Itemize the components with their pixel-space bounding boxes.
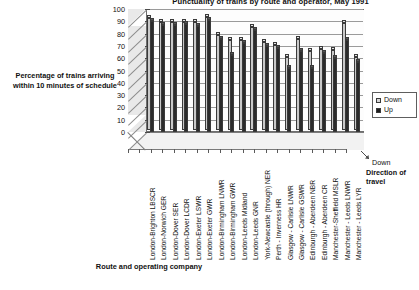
category-label: London-Birmingham LNWR bbox=[218, 179, 225, 260]
bar-top bbox=[265, 43, 269, 46]
depth-axis-tick-label: Down bbox=[372, 158, 390, 167]
bar-top bbox=[342, 20, 346, 23]
bar-up bbox=[219, 39, 223, 132]
category-label: London-Exeter GWR bbox=[206, 199, 213, 260]
bar-top bbox=[242, 40, 246, 43]
bar-top bbox=[193, 19, 197, 22]
bar-face bbox=[207, 20, 211, 132]
legend-item-up[interactable]: Up bbox=[376, 105, 414, 115]
bar-top bbox=[345, 37, 349, 40]
depth-axis-title-line2: travel bbox=[366, 177, 419, 186]
bar-face bbox=[196, 26, 200, 132]
category-label: London-Birmingham GWR bbox=[229, 183, 236, 260]
y-tick-label: 90 bbox=[117, 18, 125, 25]
bar-face bbox=[150, 21, 154, 132]
category-label: Manchester - Leeds LNWR bbox=[344, 180, 351, 260]
category-label: London-Leeds GNR bbox=[252, 201, 259, 260]
legend-swatch-down-icon bbox=[376, 98, 381, 103]
bar-up bbox=[242, 43, 246, 132]
bar-top bbox=[285, 54, 289, 57]
category-label: York-Newcastle (through) NER bbox=[264, 170, 271, 260]
bar-up bbox=[310, 68, 314, 132]
bar-face bbox=[161, 25, 165, 132]
bar-face bbox=[253, 30, 257, 132]
category-label: Manchester - Leeds LYR bbox=[355, 188, 362, 260]
y-axis-title-line1: Percentage of trains arriving bbox=[2, 71, 128, 81]
bar-top bbox=[319, 46, 323, 49]
bars-layer bbox=[146, 9, 364, 132]
bar-face bbox=[242, 43, 246, 132]
category-labels: London-Brighton LBSCRLondon-Norwich GERL… bbox=[128, 150, 378, 262]
bar-top bbox=[207, 17, 211, 20]
plot-area: 0102030405060708090100 bbox=[128, 9, 364, 149]
bar-up bbox=[322, 53, 326, 132]
category-label: London-Brighton LBSCR bbox=[149, 187, 156, 260]
category-label: Glasgow - Carlisle LNWR bbox=[287, 185, 294, 260]
bar-up bbox=[356, 62, 360, 132]
bar-top bbox=[150, 18, 154, 21]
bar-top bbox=[219, 36, 223, 39]
bar-up bbox=[196, 26, 200, 132]
bar-up bbox=[161, 25, 165, 132]
bar-up bbox=[230, 55, 234, 132]
floor-back-edge bbox=[146, 132, 364, 133]
chart-title: Punctuality of trains by route and opera… bbox=[128, 0, 413, 7]
y-tick-label: 70 bbox=[117, 42, 125, 49]
bar-top bbox=[331, 47, 335, 50]
depth-axis-title-line1: Direction of bbox=[366, 168, 419, 177]
bar-top bbox=[161, 22, 165, 25]
y-axis-title-line2: within 10 minutes of schedule bbox=[2, 81, 128, 91]
bar-up bbox=[333, 58, 337, 132]
bar-top bbox=[310, 65, 314, 68]
bar-up bbox=[265, 46, 269, 132]
bar-face bbox=[310, 68, 314, 132]
bar-top bbox=[276, 45, 280, 48]
bar-up bbox=[287, 68, 291, 132]
y-tick-label: 100 bbox=[113, 6, 125, 13]
category-label: Perth - Inverness HR bbox=[275, 198, 282, 260]
bar-top bbox=[287, 65, 291, 68]
y-tick-label: 0 bbox=[121, 129, 125, 136]
bar-face bbox=[322, 53, 326, 132]
bar-top bbox=[230, 52, 234, 55]
bar-top bbox=[322, 50, 326, 53]
bar-top bbox=[253, 27, 257, 30]
bar-face bbox=[345, 40, 349, 132]
bar-face bbox=[287, 68, 291, 132]
bar-up bbox=[207, 20, 211, 132]
chart-root: Punctuality of trains by route and opera… bbox=[0, 0, 419, 290]
y-tick-label: 60 bbox=[117, 55, 125, 62]
category-label: London-Norwich GER bbox=[160, 196, 167, 260]
y-tick-label: 50 bbox=[117, 67, 125, 74]
bar-face bbox=[299, 51, 303, 132]
category-label: Glasgow - Carlisle GSWR bbox=[298, 184, 305, 260]
y-tick-label: 20 bbox=[117, 104, 125, 111]
chart-floor bbox=[128, 132, 364, 150]
category-label: London-Exeter LSWR bbox=[195, 196, 202, 260]
bar-face bbox=[333, 58, 337, 132]
legend-label-up: Up bbox=[384, 106, 393, 114]
depth-axis-title: Direction of travel bbox=[366, 168, 419, 186]
category-label: London-Dover SER bbox=[172, 203, 179, 260]
y-tick-label: 80 bbox=[117, 30, 125, 37]
y-tick-label: 30 bbox=[117, 92, 125, 99]
bar-top bbox=[173, 22, 177, 25]
bar-top bbox=[356, 59, 360, 62]
bar-top bbox=[308, 48, 312, 51]
bar-top bbox=[196, 23, 200, 26]
legend-item-down[interactable]: Down bbox=[376, 95, 414, 105]
category-label: London-Leeds Midland bbox=[241, 193, 248, 260]
bar-up bbox=[253, 30, 257, 132]
bar-top bbox=[333, 55, 337, 58]
bar-up bbox=[345, 40, 349, 132]
bar-face bbox=[276, 48, 280, 132]
bar-face bbox=[265, 46, 269, 132]
legend-swatch-up-icon bbox=[376, 108, 381, 113]
depth-axis-arrow-icon bbox=[360, 150, 372, 162]
bar-top bbox=[296, 36, 300, 39]
bar-up bbox=[150, 21, 154, 132]
bar-face bbox=[173, 25, 177, 132]
bar-face bbox=[219, 39, 223, 132]
legend[interactable]: Down Up bbox=[372, 92, 417, 118]
category-label: London-Dover LCDR bbox=[183, 198, 190, 260]
